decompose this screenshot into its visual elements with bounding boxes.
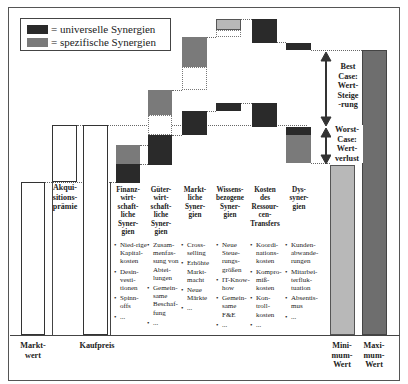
list-item: ...	[181, 304, 215, 312]
list-item: Zusam-menfas-sung von Abtei-lungen	[147, 241, 181, 282]
list-item: Neue Märkte	[181, 286, 215, 302]
column-list-markt: Cross-selling Erhöhte Markt-macht Neue M…	[181, 241, 215, 315]
list-item: Mitarbei-terfluk-tuation	[285, 268, 323, 293]
list-item: Gemein-same F&E	[216, 294, 250, 319]
list-item: ...	[250, 321, 284, 329]
list-item: Absentis-mus	[285, 294, 323, 310]
list-item: Kon-troll-kosten	[250, 294, 284, 319]
label-maximum-wert: Maxi-mum-Wert	[358, 341, 390, 370]
label-kaufpreis: Kaufpreis	[76, 341, 118, 351]
column-title-kosten: KostendesRessour-cen-Transfers	[248, 186, 282, 228]
list-item: Erhöhte Markt-macht	[181, 259, 215, 284]
column-title-markt: Markt-licheSyner-gien	[179, 186, 211, 220]
list-item: Spinn-offs	[114, 294, 148, 310]
arrow-up-icon	[321, 52, 331, 61]
list-item: Kompro-miß-kosten	[250, 268, 284, 293]
arrow-down-icon	[321, 117, 331, 126]
column-title-dys: Dys-syner-gien	[283, 186, 315, 211]
list-item: Nied-rige Kapital-kosten	[114, 241, 148, 266]
arrow-down-icon	[321, 155, 331, 164]
column-title-wissens: Wissens-bezogeneSyner-gien	[212, 186, 248, 220]
label-marktwert: Markt-wert	[14, 341, 52, 360]
list-item: ...	[147, 319, 181, 327]
label-minimum-wert: Mini-mum-Wert	[326, 341, 358, 370]
list-item: Koordi-nations-kosten	[250, 241, 284, 266]
column-title-gueter: Güter-wirt-schaft-licheSyner-gien	[145, 186, 177, 236]
worst-case-label: Worst-Case:Wert-verlust	[331, 125, 363, 163]
list-item: Kunden-abwande-rungen	[285, 241, 323, 266]
list-item: ...	[114, 313, 148, 321]
column-title-finanz: Finanz-wirt-schaft-licheSyner-gien	[112, 186, 144, 236]
column-list-gueter: Zusam-menfas-sung von Abtei-lungen Gemei…	[147, 241, 181, 329]
list-item: Desin-vesti-tionen	[114, 268, 148, 293]
arrow-up-icon	[321, 128, 331, 137]
column-list-finanz: Nied-rige Kapital-kosten Desin-vesti-tio…	[114, 241, 148, 323]
label-akquisitionspraemie: Akqui-sitions-prämie	[50, 183, 80, 212]
column-list-wissens: Neue Steue-rungs-größen IT-Know-how Geme…	[216, 241, 250, 331]
column-list-kosten: Koordi-nations-kosten Kompro-miß-kosten …	[250, 241, 284, 331]
list-item: Neue Steue-rungs-größen	[216, 241, 250, 274]
column-list-dys: Kunden-abwande-rungen Mitarbei-terfluk-t…	[285, 241, 323, 323]
list-item: ...	[285, 313, 323, 321]
best-case-label: BestCase:Wert-Steige-rung	[334, 62, 362, 110]
list-item: IT-Know-how	[216, 276, 250, 292]
list-item: Cross-selling	[181, 241, 215, 257]
list-item: ...	[216, 321, 250, 329]
list-item: Gemein-same Beschaf-fung	[147, 284, 181, 317]
